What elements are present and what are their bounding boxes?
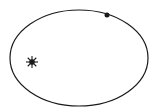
star-burst-icon	[26, 56, 38, 68]
elliptical-orbit	[10, 10, 148, 106]
orbit-diagram	[0, 0, 155, 111]
planet-dot	[105, 13, 110, 18]
